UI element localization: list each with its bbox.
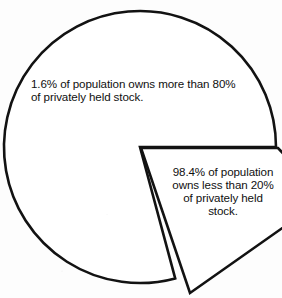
pie-chart-graphic: [0, 0, 282, 298]
pie-slice-major-label: 1.6% of population owns more than 80% of…: [31, 77, 275, 103]
pie-chart-figure: 1.6% of population owns more than 80% of…: [0, 0, 282, 298]
pie-slice-minor-label: 98.4% of population owns less than 20% o…: [166, 165, 280, 217]
